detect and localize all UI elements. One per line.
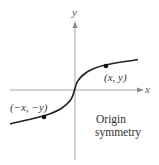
caption-line-1: Origin [95,113,141,126]
x-axis-label: x [145,84,150,95]
y-axis-arrow-icon [73,21,78,28]
caption-line-2: symmetry [95,126,141,139]
x-axis-arrow-icon [137,88,144,93]
point-label-x-y: (x, y) [104,72,127,83]
graph-canvas [0,0,159,165]
point-label-neg-x-neg-y: (−x, −y) [10,102,47,113]
caption: Origin symmetry [95,113,141,139]
y-axis-label: y [72,7,77,18]
point-neg-x-neg-y [42,115,47,120]
point-x-y [104,64,109,69]
origin-symmetry-graph: y x (x, y) (−x, −y) Origin symmetry [0,0,159,165]
